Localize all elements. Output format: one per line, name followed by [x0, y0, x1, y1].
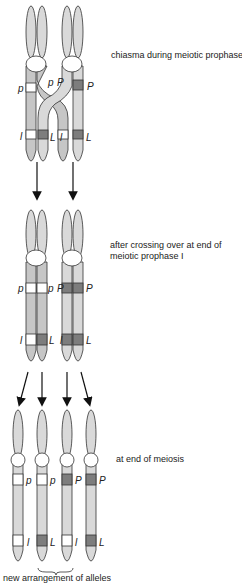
caption-stage2-line2: meiotic prophase I [110, 251, 184, 262]
svg-text:L: L [86, 132, 92, 143]
svg-text:l: l [20, 131, 23, 142]
svg-text:L: L [50, 132, 56, 143]
arrow-1 [20, 372, 28, 402]
svg-text:p: p [17, 83, 24, 94]
bracket-label: new arrangement of alleles [3, 573, 111, 584]
svg-text:L: L [99, 537, 105, 548]
caption-stage1: chiasma during meiotic prophase I [111, 50, 242, 61]
svg-text:P: P [57, 283, 64, 294]
svg-text:L: L [49, 335, 55, 346]
svg-text:P: P [75, 475, 82, 486]
svg-text:p: p [17, 283, 24, 294]
svg-text:p: p [49, 475, 56, 486]
svg-text:L: L [50, 537, 56, 548]
svg-text:l: l [20, 335, 23, 346]
svg-text:p: p [47, 283, 54, 294]
svg-text:l: l [75, 537, 78, 548]
svg-text:P: P [99, 475, 106, 486]
caption-stage2-line1: after crossing over at end of [110, 240, 222, 251]
svg-text:P: P [57, 77, 64, 88]
caption-stage3: at end of meiosis [116, 454, 184, 465]
svg-text:P: P [86, 283, 93, 294]
meiosis-crossing-over-diagram: p p P P l L l L p p P P l L l [0, 0, 242, 585]
svg-text:p: p [25, 475, 32, 486]
svg-text:P: P [87, 81, 94, 92]
svg-text:L: L [86, 335, 92, 346]
svg-text:p: p [47, 77, 54, 88]
svg-text:l: l [27, 537, 30, 548]
arrow-4 [81, 372, 89, 402]
